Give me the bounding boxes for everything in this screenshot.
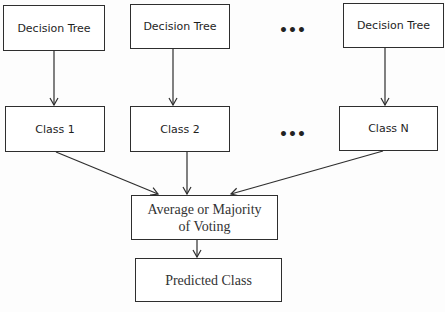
random-forest-diagram: Decision Tree Decision Tree ••• Decision… [0, 0, 445, 312]
predicted-class-label: Predicted Class [165, 272, 252, 289]
decision-tree-label-2: Decision Tree [143, 20, 216, 33]
class-box-2: Class 2 [130, 106, 230, 152]
decision-tree-box-2: Decision Tree [130, 4, 230, 49]
aggregator-label: Average or Majority of Voting [140, 201, 269, 235]
class-label-1: Class 1 [35, 123, 74, 136]
ellipsis-trees: ••• [279, 22, 306, 38]
ellipsis-classes: ••• [279, 126, 306, 142]
class-label-n: Class N [368, 122, 409, 135]
class-label-2: Class 2 [160, 123, 199, 136]
decision-tree-box-n: Decision Tree [343, 3, 444, 48]
class-box-1: Class 1 [5, 106, 105, 152]
decision-tree-label-1: Decision Tree [17, 22, 90, 35]
decision-tree-label-n: Decision Tree [357, 19, 430, 32]
aggregator-box: Average or Majority of Voting [131, 195, 278, 240]
decision-tree-box-1: Decision Tree [3, 5, 105, 51]
class-box-n: Class N [339, 106, 438, 151]
predicted-class-box: Predicted Class [135, 258, 282, 302]
